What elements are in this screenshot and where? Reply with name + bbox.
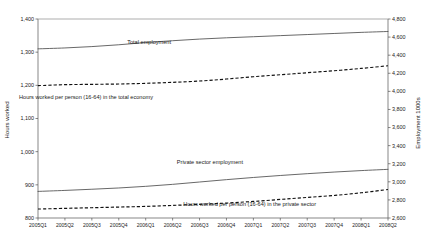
x-tick-label: 2007Q4 <box>325 222 343 228</box>
x-tick-label: 2006Q2 <box>164 222 182 228</box>
right-tick-label: 4,800 <box>392 16 406 22</box>
x-tick-label: 2005Q2 <box>56 222 74 228</box>
dual-axis-line-chart: 8009001,0001,1001,2001,3001,400 2,6002,8… <box>0 0 428 241</box>
right-tick-label: 4,600 <box>392 34 406 40</box>
right-tick-label: 3,000 <box>392 179 406 185</box>
x-tick-label: 2007Q1 <box>244 222 262 228</box>
x-tick-label: 2007Q2 <box>271 222 289 228</box>
series-label-3: Hours worked per person (16-64) in the p… <box>183 201 316 207</box>
right-axis-title: Employment 1000s <box>415 97 421 148</box>
right-tick-label: 3,400 <box>392 143 406 149</box>
series-label-2: Private sector employment <box>177 159 244 165</box>
x-tick-label: 2008Q1 <box>352 222 370 228</box>
left-tick-label: 900 <box>25 182 34 188</box>
right-tick-label: 4,400 <box>392 52 406 58</box>
x-tick-label: 2007Q3 <box>298 222 316 228</box>
left-tick-label: 1,200 <box>21 82 35 88</box>
left-tick-label: 1,000 <box>21 149 35 155</box>
left-axis-title: Hours worked <box>4 101 10 138</box>
right-tick-label: 3,200 <box>392 161 406 167</box>
left-tick-label: 1,300 <box>21 49 35 55</box>
x-tick-label: 2008Q2 <box>379 222 397 228</box>
x-tick-label: 2005Q4 <box>110 222 128 228</box>
x-tick-label: 2005Q1 <box>29 222 47 228</box>
right-tick-label: 2,800 <box>392 197 406 203</box>
x-tick-label: 2005Q3 <box>83 222 101 228</box>
left-tick-label: 800 <box>25 215 34 221</box>
series-label-0: Total employment <box>127 39 171 45</box>
x-tick-label: 2006Q3 <box>191 222 209 228</box>
x-tick-label: 2006Q4 <box>218 222 236 228</box>
left-tick-label: 1,400 <box>21 16 35 22</box>
right-tick-label: 3,800 <box>392 106 406 112</box>
left-tick-label: 1,100 <box>21 115 35 121</box>
right-tick-label: 4,000 <box>392 88 406 94</box>
right-tick-label: 3,600 <box>392 124 406 130</box>
right-tick-label: 4,200 <box>392 70 406 76</box>
series-label-1: Hours worked per person (16-64) in the t… <box>19 94 153 100</box>
chart-container: 8009001,0001,1001,2001,3001,400 2,6002,8… <box>0 0 428 241</box>
right-tick-label: 2,600 <box>392 215 406 221</box>
x-tick-label: 2006Q1 <box>137 222 155 228</box>
